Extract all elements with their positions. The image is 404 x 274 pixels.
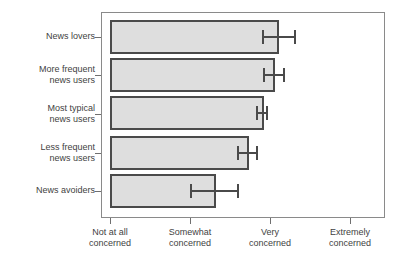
y-tick-0 [95,37,101,38]
x-tick-2 [270,218,271,224]
x-tick-0 [110,218,111,224]
x-axis-label-extremely-concerned: Extremely concerned [295,227,404,249]
bar-most-typical-news-users [110,96,264,130]
y-axis-label-news-avoiders: News avoiders [36,185,95,196]
y-axis-label-more-frequent-news-users: More frequent news users [39,64,95,86]
y-axis-label-news-lovers: News lovers [46,31,95,42]
x-tick-3 [350,218,351,224]
y-axis-label-most-typical-news-users: Most typical news users [47,103,95,125]
bar-news-avoiders [110,174,216,208]
chart-figure: News lovers More frequent news users Mos… [0,0,404,274]
x-tick-1 [190,218,191,224]
bar-more-frequent-news-users [110,58,275,92]
y-tick-1 [95,75,101,76]
y-tick-2 [95,114,101,115]
y-tick-3 [95,153,101,154]
y-tick-4 [95,191,101,192]
bar-less-frequent-news-users [110,136,249,170]
bar-news-lovers [110,20,279,54]
y-axis-label-less-frequent-news-users: Less frequent news users [40,142,95,164]
